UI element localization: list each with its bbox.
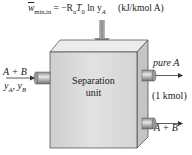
- separation-unit-label: Separation unit: [50, 75, 137, 99]
- inlet-mixture-label: A + B: [3, 66, 27, 77]
- outlet-amount-label: (1 kmol): [152, 90, 187, 101]
- outlet-pipe-top: [142, 70, 183, 81]
- unit-side-face: [137, 40, 148, 148]
- inlet-fractions-label: yA, yB: [4, 80, 26, 93]
- outlet-pure-a-label: pure A: [153, 57, 179, 68]
- equals-minus: = −R: [54, 3, 73, 13]
- equation-units: (kJ/kmol A): [118, 3, 164, 13]
- ln-term: ln y: [85, 3, 102, 13]
- min-work-equation: wmin,in = −RuT0 ln yA (kJ/kmol A): [28, 3, 164, 15]
- outlet-mixture-label: A + B: [154, 122, 178, 133]
- y-subscript: A: [102, 8, 106, 15]
- unit-top-face: [50, 40, 148, 52]
- work-subscript: min,in: [34, 8, 51, 15]
- unit-label-line2: unit: [50, 87, 137, 99]
- unit-front-face: [50, 52, 137, 148]
- unit-label-line1: Separation: [50, 75, 137, 87]
